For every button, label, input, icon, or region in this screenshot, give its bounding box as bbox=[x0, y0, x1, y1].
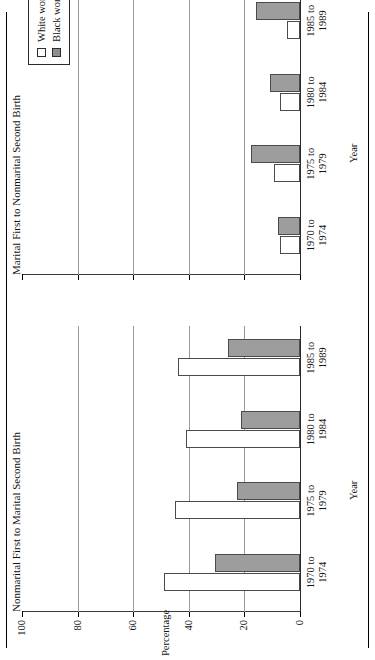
legend-entry-black-women: Black women bbox=[49, 0, 64, 57]
panel-0-title: Nonmarital First to Marital Second Birth bbox=[10, 432, 22, 612]
chart-legend: White women Black women bbox=[28, 0, 70, 65]
category-label-line: 1989 bbox=[317, 329, 329, 387]
category-label-1980-to-1984: 1980 to1984 bbox=[305, 400, 328, 458]
category-label-line: 1984 bbox=[317, 400, 329, 458]
bar-panel-nonmarital-first-white-women-1975-to-1979 bbox=[175, 501, 300, 519]
legend-swatch-white-women-icon bbox=[37, 48, 46, 57]
figure-top-rule bbox=[6, 12, 7, 648]
value-tick-40 bbox=[189, 612, 190, 617]
panel-1-title: Marital First to Nonmarital Second Birth bbox=[10, 95, 22, 275]
value-tick-60 bbox=[133, 275, 134, 280]
value-tick-label-0: 0 bbox=[295, 620, 305, 646]
zero-baseline bbox=[300, 0, 301, 275]
value-tick-label-80: 80 bbox=[73, 620, 83, 646]
bar-panel-marital-first-black-women-1980-to-1984 bbox=[270, 74, 300, 92]
gridline-20 bbox=[244, 0, 245, 275]
gridline-60 bbox=[133, 326, 134, 612]
category-label-1975-to-1979: 1975 to1979 bbox=[305, 135, 328, 193]
bar-panel-marital-first-black-women-1970-to-1974 bbox=[278, 217, 300, 235]
value-tick-label-60: 60 bbox=[128, 620, 138, 646]
legend-label-white-women: White women bbox=[36, 0, 47, 42]
bar-panel-nonmarital-first-black-women-1985-to-1989 bbox=[228, 339, 300, 357]
category-label-1975-to-1979: 1975 to1979 bbox=[305, 472, 328, 530]
gridline-40 bbox=[189, 0, 190, 275]
value-tick-100 bbox=[22, 275, 23, 280]
category-label-line: 1985 to bbox=[305, 329, 317, 387]
gridline-80 bbox=[78, 0, 79, 275]
category-label-line: 1975 to bbox=[305, 135, 317, 193]
bar-panel-nonmarital-first-black-women-1970-to-1974 bbox=[215, 554, 300, 572]
value-tick-80 bbox=[78, 612, 79, 617]
category-label-line: 1975 to bbox=[305, 472, 317, 530]
value-tick-60 bbox=[133, 612, 134, 617]
category-label-1985-to-1989: 1985 to1989 bbox=[305, 329, 328, 387]
bar-panel-marital-first-black-women-1985-to-1989 bbox=[256, 2, 300, 20]
value-tick-100 bbox=[22, 612, 23, 617]
bar-panel-marital-first-black-women-1975-to-1979 bbox=[251, 145, 300, 163]
category-label-line: 1970 to bbox=[305, 206, 317, 264]
category-label-1970-to-1974: 1970 to1974 bbox=[305, 206, 328, 264]
bar-panel-marital-first-white-women-1970-to-1974 bbox=[280, 236, 300, 254]
figure-bottom-rule bbox=[368, 12, 369, 648]
category-label-line: 1970 to bbox=[305, 543, 317, 601]
zero-baseline bbox=[300, 326, 301, 612]
gridline-60 bbox=[133, 0, 134, 275]
bar-panel-marital-first-white-women-1975-to-1979 bbox=[274, 164, 300, 182]
category-label-line: 1984 bbox=[317, 63, 329, 121]
value-tick-label-100: 100 bbox=[17, 620, 27, 646]
value-tick-label-20: 20 bbox=[239, 620, 249, 646]
bar-panel-nonmarital-first-black-women-1975-to-1979 bbox=[237, 482, 300, 500]
value-tick-0 bbox=[300, 275, 301, 280]
value-tick-80 bbox=[78, 275, 79, 280]
bar-panel-nonmarital-first-white-women-1985-to-1989 bbox=[178, 358, 300, 376]
bar-panel-nonmarital-first-white-women-1980-to-1984 bbox=[186, 430, 300, 448]
value-tick-20 bbox=[244, 612, 245, 617]
value-axis-title: Percentage bbox=[160, 610, 171, 656]
category-label-1970-to-1974: 1970 to1974 bbox=[305, 543, 328, 601]
bar-panel-marital-first-white-women-1980-to-1984 bbox=[280, 93, 300, 111]
category-label-line: 1979 bbox=[317, 472, 329, 530]
chart-figure: 0204060801001970 to19741975 to19791980 t… bbox=[0, 0, 375, 660]
panel-1-xaxis-title: Year bbox=[348, 144, 359, 163]
category-label-line: 1979 bbox=[317, 135, 329, 193]
value-tick-0 bbox=[300, 612, 301, 617]
value-axis-line-panel-1 bbox=[22, 274, 300, 275]
category-label-line: 1989 bbox=[317, 0, 329, 50]
bar-panel-marital-first-white-women-1985-to-1989 bbox=[287, 21, 300, 39]
legend-label-black-women: Black women bbox=[51, 0, 62, 42]
category-label-line: 1974 bbox=[317, 543, 329, 601]
value-tick-label-40: 40 bbox=[184, 620, 194, 646]
legend-entry-white-women: White women bbox=[34, 0, 49, 57]
value-tick-40 bbox=[189, 275, 190, 280]
category-label-1980-to-1984: 1980 to1984 bbox=[305, 63, 328, 121]
category-label-line: 1974 bbox=[317, 206, 329, 264]
category-label-line: 1985 to bbox=[305, 0, 317, 50]
category-label-line: 1980 to bbox=[305, 400, 317, 458]
gridline-80 bbox=[78, 326, 79, 612]
value-tick-20 bbox=[244, 275, 245, 280]
bar-panel-nonmarital-first-white-women-1970-to-1974 bbox=[164, 573, 300, 591]
panel-0-xaxis-title: Year bbox=[348, 481, 359, 500]
panel-nonmarital-first: 0204060801001970 to19741975 to19791980 t… bbox=[22, 326, 322, 612]
category-label-line: 1980 to bbox=[305, 63, 317, 121]
bar-panel-nonmarital-first-black-women-1980-to-1984 bbox=[241, 411, 300, 429]
category-label-1985-to-1989: 1985 to1989 bbox=[305, 0, 328, 50]
legend-swatch-black-women-icon bbox=[52, 48, 61, 57]
